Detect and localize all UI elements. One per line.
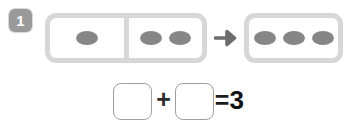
sum-value: 3 [229,87,243,115]
dot [76,31,98,45]
dot [140,31,162,45]
dot [283,31,305,45]
dot-frame-right-cell-1 [249,18,338,58]
dot [169,31,191,45]
worksheet-problem: 1 + = 3 [0,0,357,124]
problem-number-label: 1 [9,9,32,32]
problem-number-badge: 1 [9,9,32,32]
addend-2-input[interactable] [175,83,214,120]
addend-1-input[interactable] [113,83,152,120]
dot [312,31,334,45]
dot-frame-left-cell-2 [124,18,203,58]
plus-operator: + [152,87,175,115]
arrow-right-icon [211,24,241,52]
equation-row: + = 3 [0,78,357,124]
dot [254,31,276,45]
dot-frame-left [45,13,207,63]
equals-operator: = [214,88,230,115]
dot-frame-left-cell-1 [50,18,124,58]
dot-frame-right [244,13,343,63]
